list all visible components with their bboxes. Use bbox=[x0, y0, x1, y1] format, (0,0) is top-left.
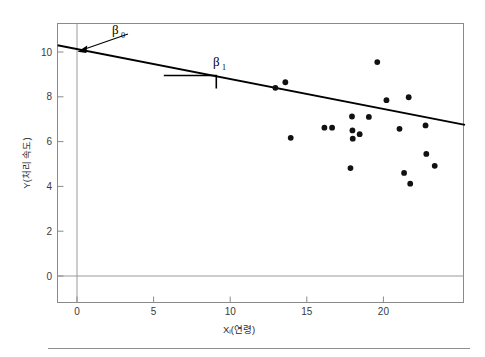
y-tick-label-0: 0 bbox=[46, 271, 52, 282]
regression-scatter-chart: 0 2 4 6 8 10 0 5 10 15 20 Xᵢ(연령) Y(처리 속도… bbox=[0, 0, 485, 357]
data-point bbox=[329, 125, 335, 131]
data-point bbox=[401, 170, 407, 176]
data-point bbox=[406, 94, 412, 100]
beta1-subscript: 1 bbox=[222, 63, 226, 72]
y-tick-label-4: 4 bbox=[46, 181, 52, 192]
x-tick-label-20: 20 bbox=[378, 306, 390, 317]
x-tick-label-15: 15 bbox=[301, 306, 313, 317]
data-point bbox=[366, 114, 372, 120]
data-point bbox=[348, 165, 354, 171]
y-tick-label-8: 8 bbox=[46, 91, 52, 102]
y-tick-label-2: 2 bbox=[46, 226, 52, 237]
data-point bbox=[384, 97, 390, 103]
data-point bbox=[288, 135, 294, 141]
x-tick-label-0: 0 bbox=[74, 306, 80, 317]
data-point bbox=[350, 127, 356, 133]
data-point bbox=[374, 59, 380, 65]
data-point bbox=[397, 126, 403, 132]
x-axis-title: Xᵢ(연령) bbox=[223, 324, 255, 335]
data-point bbox=[432, 163, 438, 169]
y-tick-label-6: 6 bbox=[46, 136, 52, 147]
x-tick-label-10: 10 bbox=[225, 306, 237, 317]
x-tick-label-5: 5 bbox=[151, 306, 157, 317]
data-point bbox=[423, 123, 429, 129]
chart-background bbox=[0, 0, 485, 357]
y-axis-title: Y(처리 속도) bbox=[21, 137, 32, 188]
data-point bbox=[350, 136, 356, 142]
data-point bbox=[349, 114, 355, 120]
data-point bbox=[282, 79, 288, 85]
data-point bbox=[357, 131, 363, 137]
data-point bbox=[272, 85, 278, 91]
data-point bbox=[322, 125, 328, 131]
data-point bbox=[407, 181, 413, 187]
beta0-subscript: 0 bbox=[121, 31, 125, 40]
data-point bbox=[423, 151, 429, 157]
beta1-label: β bbox=[213, 54, 220, 69]
y-tick-label-10: 10 bbox=[41, 47, 53, 58]
beta0-label: β bbox=[112, 22, 119, 37]
